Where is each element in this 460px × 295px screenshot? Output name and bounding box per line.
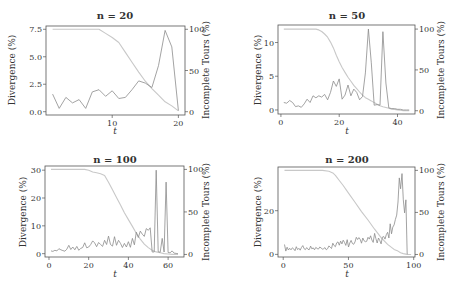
left-tick-label: 10 xyxy=(264,39,274,48)
left-tick-label: 30 xyxy=(31,166,41,175)
incomplete-tours-line xyxy=(51,169,178,254)
right-tick-label: 0 xyxy=(188,250,193,259)
divergence-line xyxy=(51,170,178,254)
left-tick-label: 0 xyxy=(269,106,274,115)
plot-frame xyxy=(278,25,415,114)
right-axis-label: Incomplete Tours (%) xyxy=(201,21,211,119)
panel-n50: n = 50 020400510050100 Divergence (%) In… xyxy=(253,10,446,136)
left-tick-label: 20 xyxy=(31,194,41,203)
x-axis-label: t xyxy=(113,126,117,136)
plot-area xyxy=(285,170,412,254)
right-tick-label: 50 xyxy=(188,208,198,217)
left-tick-label: 5.0 xyxy=(29,53,42,62)
divergence-line xyxy=(53,30,179,110)
left-axis-label: Divergence (%) xyxy=(253,177,263,248)
x-tick-label: 0 xyxy=(281,261,286,270)
right-axis-label: Incomplete Tours (%) xyxy=(436,21,446,119)
incomplete-tours-line xyxy=(53,29,179,111)
x-tick-label: 40 xyxy=(392,118,402,127)
panel-title: n = 20 xyxy=(97,10,134,21)
x-tick-label: 20 xyxy=(334,118,344,127)
panel-n20: n = 20 10200.02.55.07.5050100 Divergence… xyxy=(7,10,211,136)
left-tick-label: 2.5 xyxy=(29,80,42,89)
figure: n = 20 10200.02.55.07.5050100 Divergence… xyxy=(0,0,460,295)
panel-title: n = 100 xyxy=(93,154,137,165)
right-tick-label: 50 xyxy=(189,67,199,76)
right-tick-label: 0 xyxy=(419,250,424,259)
x-tick-label: 40 xyxy=(123,261,133,270)
left-tick-label: 5 xyxy=(269,72,274,81)
x-axis-label: t xyxy=(345,269,349,279)
x-tick-label: 20 xyxy=(84,261,94,270)
left-axis-label: Divergence (%) xyxy=(7,35,17,106)
x-tick-label: 0 xyxy=(278,118,283,127)
panel-n100: n = 100 02040600102030050100 Divergence … xyxy=(18,154,211,279)
divergence-line xyxy=(284,29,409,110)
right-tick-label: 50 xyxy=(419,208,429,217)
left-axis-label: Divergence (%) xyxy=(18,177,28,248)
x-axis-label: t xyxy=(345,126,349,136)
x-tick-label: 0 xyxy=(46,261,51,270)
plot-area xyxy=(53,29,179,111)
x-tick-label: 60 xyxy=(163,261,173,270)
right-axis-label: Incomplete Tours (%) xyxy=(201,163,211,261)
incomplete-tours-line xyxy=(284,29,409,111)
divergence-line xyxy=(285,174,408,255)
panel-n200: n = 200 050100020050100 Divergence (%) I… xyxy=(253,154,446,279)
x-axis-label: t xyxy=(113,269,117,279)
left-tick-label: 7.5 xyxy=(29,25,42,34)
plot-area xyxy=(51,169,178,254)
plot-area xyxy=(284,29,409,111)
left-axis-label: Divergence (%) xyxy=(253,35,263,106)
x-tick-label: 20 xyxy=(173,119,183,128)
right-axis-label: Incomplete Tours (%) xyxy=(436,163,446,261)
panel-title: n = 50 xyxy=(329,10,366,21)
right-tick-label: 50 xyxy=(419,66,429,75)
panel-title: n = 200 xyxy=(325,154,369,165)
left-tick-label: 0.0 xyxy=(29,108,42,117)
right-tick-label: 0 xyxy=(419,107,424,116)
right-tick-label: 100 xyxy=(419,166,434,175)
left-tick-label: 0 xyxy=(36,250,41,259)
right-tick-label: 100 xyxy=(419,25,434,34)
left-tick-label: 10 xyxy=(31,222,41,231)
axis-ticks: 020400510050100 xyxy=(264,25,434,127)
x-tick-label: 100 xyxy=(406,261,421,270)
left-tick-label: 0 xyxy=(269,250,274,259)
left-tick-label: 20 xyxy=(264,207,274,216)
right-tick-label: 0 xyxy=(189,108,194,117)
